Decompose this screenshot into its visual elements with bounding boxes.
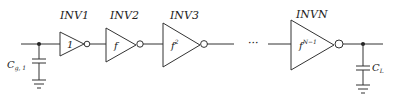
inverter-bubble-icon xyxy=(137,41,143,47)
inv2-label: INV2 xyxy=(109,9,139,22)
inverter-1: 1 INV1 xyxy=(59,9,90,56)
invn-label: INVN xyxy=(295,8,328,21)
inverter-2: f INV2 xyxy=(106,9,143,62)
inverter-bubble-icon xyxy=(201,41,208,48)
load-cap-label: CL xyxy=(372,62,384,74)
inverter-bubble-icon xyxy=(84,41,90,47)
inverter-n: fN−1 INVN xyxy=(291,8,343,70)
inverter-3: f2 INV3 xyxy=(163,9,207,67)
ellipsis: ··· xyxy=(248,37,259,50)
input-cap-label: Cg, 1 xyxy=(7,59,26,72)
svg-text:1: 1 xyxy=(67,39,73,50)
load-capacitor xyxy=(356,44,370,93)
inverter-chain-diagram: Cg, 1 1 INV1 f INV2 f2 INV3 ··· fN−1 INV… xyxy=(0,0,395,98)
input-capacitor xyxy=(32,44,46,88)
inv1-label: INV1 xyxy=(59,9,89,22)
inverter-bubble-icon xyxy=(335,40,343,48)
inv3-label: INV3 xyxy=(169,9,199,22)
